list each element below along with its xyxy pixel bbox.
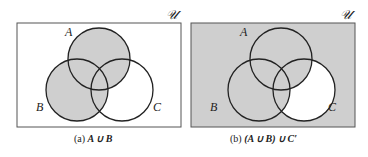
label-a: A [65, 25, 72, 40]
universe-label-b: 𝒰 [340, 7, 352, 23]
universe-label-a: 𝒰 [166, 7, 178, 23]
caption-b: (b) (A ∪ B) ∪ C′ [230, 133, 297, 144]
label-c: C [153, 100, 161, 115]
label-b: B [36, 100, 43, 115]
label-c-b: C [328, 100, 336, 115]
label-b-b: B [210, 100, 217, 115]
label-a-b: A [240, 25, 247, 40]
caption-a: (a) A ∪ B [74, 133, 112, 144]
venn-diagrams [0, 0, 368, 157]
